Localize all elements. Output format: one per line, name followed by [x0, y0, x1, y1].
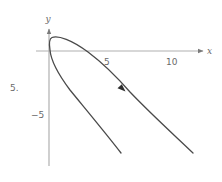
y-tick-label-neg5: −5	[31, 110, 44, 120]
parametric-curve-plot: x y 5 10 −5 5.	[0, 0, 222, 182]
y-axis-label: y	[45, 14, 52, 24]
x-tick-label-10: 10	[166, 57, 178, 67]
problem-number-label: 5.	[10, 83, 19, 93]
parametric-curve	[49, 37, 193, 153]
x-axis-label: x	[207, 46, 212, 56]
